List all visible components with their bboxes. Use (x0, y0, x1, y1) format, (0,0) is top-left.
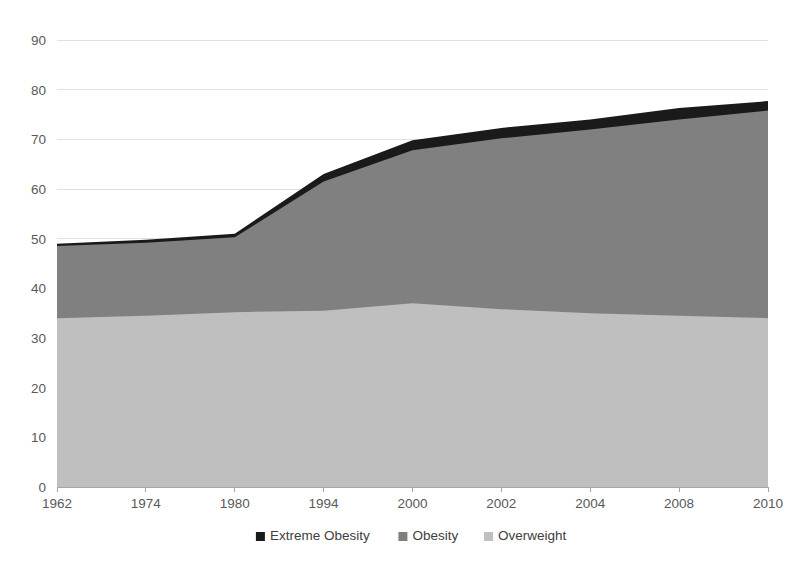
y-tick-label-10: 10 (31, 430, 46, 445)
x-tick-label-1980: 1980 (220, 496, 250, 511)
legend-label: Overweight (498, 528, 567, 543)
x-tick-label-1962: 1962 (42, 496, 72, 511)
y-tick-label-60: 60 (31, 182, 46, 197)
legend-swatch-icon (398, 532, 407, 541)
x-tick-label-2004: 2004 (575, 496, 606, 511)
legend-swatch-icon (484, 532, 493, 541)
area-series-overweight (57, 303, 768, 487)
y-tick-label-0: 0 (38, 480, 46, 495)
x-tick-label-1994: 1994 (309, 496, 340, 511)
y-tick-label-50: 50 (31, 232, 46, 247)
x-axis-tick-labels: 196219741980199420002002200420082010 (42, 496, 783, 511)
x-tick-label-2010: 2010 (753, 496, 783, 511)
x-tick-label-1974: 1974 (131, 496, 162, 511)
chart-container: 0102030405060708090 19621974198019942000… (0, 0, 806, 576)
x-tick-label-2008: 2008 (664, 496, 694, 511)
y-tick-label-40: 40 (31, 281, 46, 296)
legend-swatch-icon (256, 532, 265, 541)
y-tick-label-70: 70 (31, 132, 46, 147)
x-tick-label-2002: 2002 (486, 496, 516, 511)
y-tick-label-30: 30 (31, 331, 46, 346)
legend-label: Obesity (412, 528, 458, 543)
y-tick-label-90: 90 (31, 33, 46, 48)
area-chart: 0102030405060708090 19621974198019942000… (0, 0, 806, 576)
legend-label: Extreme Obesity (270, 528, 370, 543)
y-tick-label-80: 80 (31, 83, 46, 98)
x-tick-label-2000: 2000 (397, 496, 427, 511)
legend-item-extreme-obesity[interactable]: Extreme Obesity (256, 528, 370, 543)
y-tick-label-20: 20 (31, 381, 46, 396)
